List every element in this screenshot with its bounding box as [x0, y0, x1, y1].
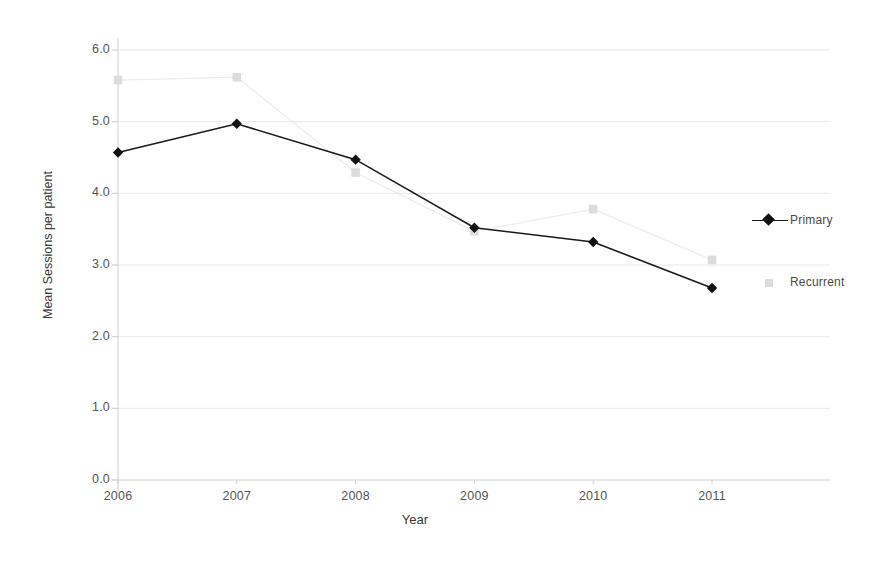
- axis-lines: [112, 38, 712, 494]
- x-tick-label: 2007: [222, 489, 251, 503]
- legend-item-recurrent[interactable]: Recurrent: [752, 274, 845, 290]
- y-tick-label: 2.0: [68, 329, 110, 343]
- y-axis-title: Mean Sessions per patient: [41, 135, 55, 355]
- gridlines: [112, 50, 830, 480]
- x-tick-label: 2011: [698, 489, 726, 503]
- legend-item-primary[interactable]: Primary: [752, 212, 833, 228]
- x-tick-label: 2006: [104, 489, 133, 503]
- series-primary: [113, 119, 717, 294]
- y-tick-label: 6.0: [68, 42, 110, 56]
- series-recurrent: [114, 73, 717, 264]
- y-tick-label: 0.0: [68, 472, 110, 486]
- legend-label-recurrent: Recurrent: [788, 275, 845, 289]
- x-axis-title: Year: [0, 512, 830, 527]
- plot-area: [0, 0, 872, 562]
- x-tick-label: 2008: [341, 489, 370, 503]
- y-tick-label: 4.0: [68, 185, 110, 199]
- x-tick-label: 2010: [579, 489, 608, 503]
- line-chart: 0.01.02.03.04.05.06.0 200620072008200920…: [0, 0, 872, 562]
- x-tick-label: 2009: [460, 489, 489, 503]
- diamond-marker-icon: [752, 212, 788, 228]
- y-tick-label: 5.0: [68, 114, 110, 128]
- legend-label-primary: Primary: [788, 213, 833, 227]
- y-tick-label: 3.0: [68, 257, 110, 271]
- square-marker-icon: [752, 274, 788, 290]
- y-tick-label: 1.0: [68, 400, 110, 414]
